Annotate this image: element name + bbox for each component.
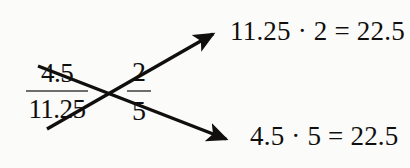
cross-arrow-down [38, 66, 226, 139]
top-equation: 11.25 · 2 = 22.5 [230, 18, 405, 45]
cross-arrow-up [47, 34, 213, 129]
cross-multiplication-diagram: 4.5 11.25 2 5 11.25 · 2 = 22.5 4.5 · 5 =… [0, 0, 410, 168]
bottom-equation: 4.5 · 5 = 22.5 [250, 123, 399, 150]
